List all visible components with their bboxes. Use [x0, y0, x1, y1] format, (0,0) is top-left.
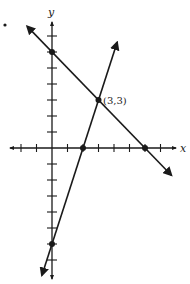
marked-point: [142, 145, 148, 151]
intersection-label: (3,3): [103, 95, 127, 106]
marked-point: [49, 49, 55, 55]
x-axis-label: x: [180, 142, 187, 155]
line-increasing: [42, 42, 117, 275]
plotted-lines: [27, 26, 171, 275]
stray-dot: [3, 23, 6, 26]
graph-figure: x y (3,3): [0, 0, 190, 284]
marked-point: [96, 97, 102, 103]
marked-point: [49, 241, 55, 247]
y-axis-label: y: [47, 6, 55, 19]
marked-point: [80, 145, 86, 151]
stray-dot-mark: [3, 23, 6, 26]
